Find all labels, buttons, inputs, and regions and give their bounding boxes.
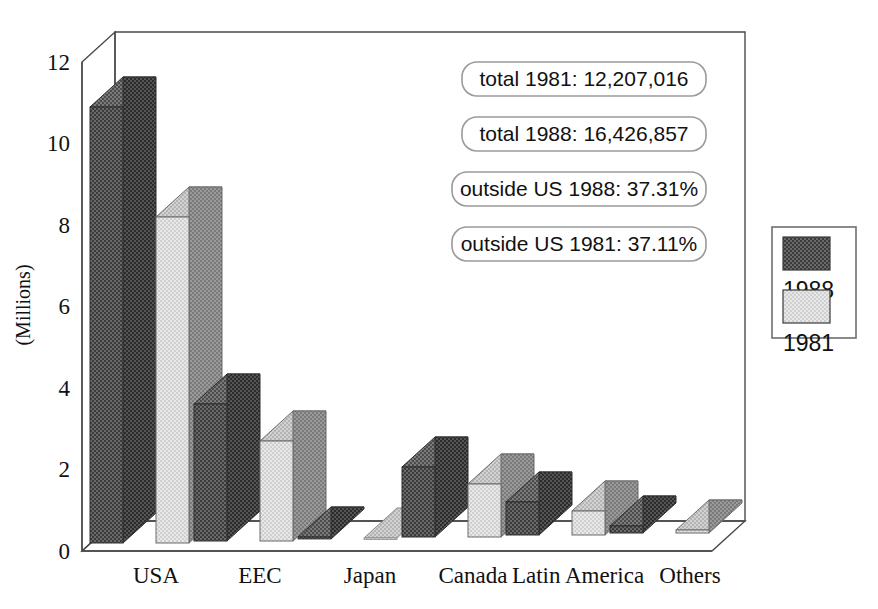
y-tick-label: 6 (59, 294, 71, 319)
y-tick-label: 4 (59, 376, 71, 401)
annotation-label: outside US 1988: 37.31% (460, 177, 698, 200)
chart-canvas: 12 10 8 6 4 2 0 (Millions) (0, 0, 878, 609)
annotation-label: outside US 1981: 37.11% (461, 232, 698, 255)
bar-chart: 12 10 8 6 4 2 0 (Millions) (0, 0, 878, 609)
annotation-label: total 1981: 12,207,016 (479, 67, 688, 90)
x-tick-label-eec: EEC (238, 563, 281, 588)
y-axis-title: (Millions) (12, 264, 35, 345)
chart-legend: 1988 1981 (772, 227, 856, 356)
x-tick-label-latin-america: Latin America (512, 563, 644, 588)
y-tick-label: 2 (59, 457, 71, 482)
y-tick-label: 0 (59, 539, 71, 564)
legend-swatch-1988 (783, 237, 830, 270)
annotation-box-outside-us-1981: outside US 1981: 37.11% (452, 227, 706, 261)
x-tick-label-canada: Canada (439, 563, 508, 588)
x-tick-label-usa: USA (133, 563, 179, 588)
annotation-box-total-1981: total 1981: 12,207,016 (462, 62, 706, 96)
annotation-box-total-1988: total 1988: 16,426,857 (462, 117, 706, 151)
annotation-label: total 1988: 16,426,857 (479, 122, 688, 145)
x-tick-label-others: Others (659, 563, 720, 588)
legend-label-1981: 1981 (783, 330, 834, 356)
y-tick-label: 8 (59, 213, 71, 238)
bar-usa-1988 (90, 77, 156, 543)
bar-eec-1988 (194, 374, 260, 541)
y-tick-label: 12 (47, 50, 70, 75)
x-tick-label-japan: Japan (344, 563, 397, 588)
y-tick-label: 10 (47, 131, 70, 156)
annotation-box-outside-us-1988: outside US 1988: 37.31% (452, 172, 706, 206)
legend-swatch-1981 (783, 290, 830, 323)
